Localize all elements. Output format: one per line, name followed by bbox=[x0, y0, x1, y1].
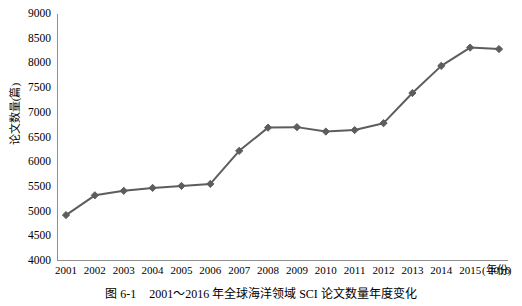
caption-text: 2001～2016 年全球海洋领域 SCI 论文数量年度变化 bbox=[149, 287, 417, 301]
figure-container: 论文数量(篇) 90008500800075007000650060005500… bbox=[0, 0, 522, 306]
y-axis-tick-label: 5500 bbox=[11, 181, 51, 193]
data-line-series bbox=[66, 48, 499, 215]
y-axis-tick-label: 9000 bbox=[11, 8, 51, 20]
y-axis-tick-label: 7000 bbox=[11, 107, 51, 119]
y-axis-tick-label: 4500 bbox=[11, 230, 51, 242]
caption-number: 图 6-1 bbox=[105, 287, 136, 301]
y-axis-tick-label: 6500 bbox=[11, 132, 51, 144]
y-axis-tick-label: 8000 bbox=[11, 57, 51, 69]
y-axis-tick-labels: 9000850080007500700065006000550050004500… bbox=[8, 0, 51, 275]
data-point-marker[interactable] bbox=[322, 128, 329, 135]
data-point-marker[interactable] bbox=[178, 182, 185, 189]
y-axis-tick-label: 5000 bbox=[11, 206, 51, 218]
data-point-marker[interactable] bbox=[495, 45, 502, 52]
data-point-marker[interactable] bbox=[149, 184, 156, 191]
y-axis-tick-label: 8500 bbox=[11, 33, 51, 45]
y-axis-tick-label: 6000 bbox=[11, 156, 51, 168]
y-axis-tick-label: 7500 bbox=[11, 82, 51, 94]
data-point-marker[interactable] bbox=[293, 124, 300, 131]
data-point-marker[interactable] bbox=[351, 126, 358, 133]
x-axis-unit-label: (年份) bbox=[482, 264, 511, 277]
chart-svg bbox=[57, 14, 508, 261]
figure-caption: 图 6-12001～2016 年全球海洋领域 SCI 论文数量年度变化 bbox=[0, 287, 522, 301]
x-axis-tick-labels: 2001200220032004200520062007200820092010… bbox=[57, 264, 508, 280]
data-point-marker[interactable] bbox=[120, 187, 127, 194]
plot-area bbox=[57, 14, 508, 261]
